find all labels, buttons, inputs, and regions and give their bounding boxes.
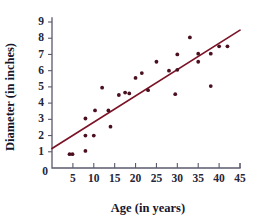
data-point [84,117,88,121]
data-point [196,52,200,56]
data-point [173,92,177,96]
y-axis-title: Diameter (in inches) [3,43,17,151]
y-tick-label: 3 [38,112,44,124]
data-point [92,134,96,138]
y-tick-label: 8 [38,31,44,43]
data-point [209,84,213,88]
data-point [100,86,104,90]
y-tick-label: 6 [38,64,44,76]
data-point [146,88,150,92]
data-point [188,36,192,40]
data-point [175,68,179,72]
x-tick-label: 15 [109,172,121,184]
y-axis-ticks: 123456789 [38,15,52,157]
axes [52,18,240,168]
data-point [140,71,144,75]
data-point [196,60,200,64]
y-tick-label: 2 [38,129,44,141]
y-tick-label: 5 [38,80,44,92]
data-point [217,44,221,48]
data-point [175,53,179,57]
x-axis-title: Age (in years) [111,201,185,215]
x-tick-label: 25 [151,172,163,184]
data-point [134,76,138,80]
x-axis-ticks: 51015202530354045 [70,163,246,184]
x-tick-label: 10 [88,172,100,184]
data-points [68,36,230,157]
data-point [155,60,159,64]
y-tick-label: 9 [38,15,44,27]
x-tick-label: 30 [172,172,184,184]
origin-tick-label: 0 [42,165,48,177]
line-of-best-fit [52,30,240,148]
x-tick-label: 35 [192,172,204,184]
y-tick-label: 1 [38,145,44,157]
y-tick-label: 7 [38,48,44,60]
axis-lines [52,18,240,168]
data-point [93,109,97,113]
data-point [107,109,111,113]
data-point [209,52,213,56]
data-point [84,134,88,138]
data-point [71,152,75,156]
data-point [117,93,121,97]
x-tick-label: 40 [213,172,225,184]
data-point [127,91,131,95]
x-tick-label: 5 [70,172,76,184]
data-point [123,91,127,95]
chart-canvas: 123456789 51015202530354045 0 Age (in ye… [0,0,259,220]
scatter-plot-figure: 123456789 51015202530354045 0 Age (in ye… [0,0,259,220]
data-point [84,149,88,153]
x-tick-label: 20 [130,172,142,184]
data-point [167,69,171,73]
y-tick-label: 4 [38,96,44,108]
data-point [109,125,113,129]
data-point [226,44,230,48]
x-tick-label: 45 [234,172,246,184]
trend-line [52,30,240,148]
